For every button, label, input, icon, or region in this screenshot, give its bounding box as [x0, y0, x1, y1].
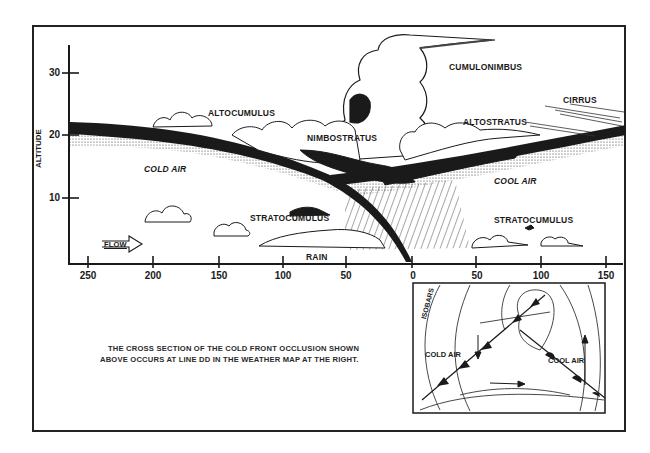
x-tick-100-right: 100 — [533, 270, 550, 281]
caption: THE CROSS SECTION OF THE COLD FRONT OCCL… — [100, 343, 359, 365]
x-tick-100: 100 — [275, 270, 292, 281]
label-cumulonimbus: CUMULONIMBUS — [449, 62, 522, 72]
x-tick-150: 150 — [211, 270, 228, 281]
y-tick-30: 30 — [40, 67, 60, 78]
x-tick-0: 0 — [410, 270, 416, 281]
label-cool-air: COOL AIR — [494, 176, 537, 186]
caption-line-2: ABOVE OCCURS AT LINE DD IN THE WEATHER M… — [100, 354, 359, 365]
caption-line-1: THE CROSS SECTION OF THE COLD FRONT OCCL… — [100, 343, 359, 354]
inset-label-cool-air: COOL AIR — [548, 356, 584, 365]
y-tick-10: 10 — [40, 192, 60, 203]
label-cold-air: COLD AIR — [144, 164, 186, 174]
x-tick-50-right: 50 — [471, 270, 482, 281]
label-flow: FLOW — [104, 240, 127, 249]
altocumulus-cloud — [153, 112, 212, 127]
x-tick-200: 200 — [145, 270, 162, 281]
label-stratocumulus-left: STRATOCUMULUS — [250, 213, 329, 223]
label-altocumulus: ALTOCUMULUS — [208, 108, 275, 118]
cross-section-illustration — [0, 0, 650, 453]
label-rain: RAIN — [306, 252, 328, 262]
x-tick-150-right: 150 — [598, 270, 615, 281]
label-altostratus: ALTOSTRATUS — [463, 117, 527, 127]
label-cirrus: CIRRUS — [563, 95, 597, 105]
stratocumulus-cloud-right — [472, 225, 583, 248]
inset-label-cold-air: COLD AIR — [425, 350, 461, 359]
inset-weather-map — [413, 283, 605, 413]
label-nimbostratus: NIMBOSTRATUS — [307, 133, 377, 143]
y-tick-20: 20 — [40, 129, 60, 140]
label-stratocumulus-right: STRATOCUMULUS — [494, 215, 573, 225]
x-tick-250: 250 — [80, 270, 97, 281]
x-tick-50: 50 — [340, 270, 351, 281]
